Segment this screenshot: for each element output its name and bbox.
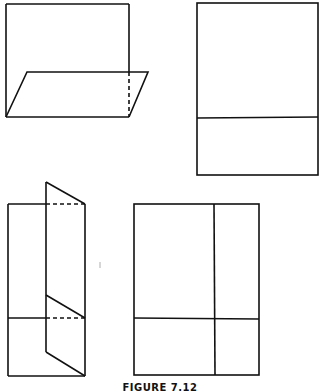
panel-d — [134, 204, 259, 375]
panel-b — [197, 3, 318, 175]
panel-a — [6, 4, 148, 117]
figure-caption: FIGURE 7.12 — [0, 382, 320, 392]
figure-diagram — [0, 0, 320, 392]
panel-c — [8, 182, 85, 376]
